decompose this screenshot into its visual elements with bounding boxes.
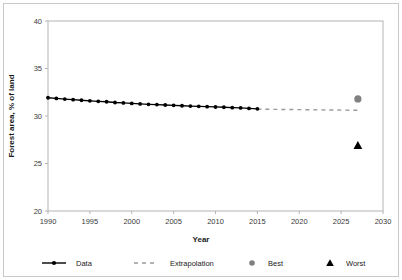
x-tick-label: 2020: [291, 217, 308, 226]
legend-item: Data: [42, 259, 93, 268]
x-axis: 199019952000200520102015202020252030: [40, 211, 392, 226]
legend-label: Extrapolation: [170, 259, 214, 268]
chart-legend: DataExtrapolationBestWorst: [42, 259, 366, 268]
x-tick-label: 2030: [375, 217, 392, 226]
data-point-marker: [188, 104, 192, 108]
forest-area-chart: 2025303540 19901995200020052010201520202…: [0, 0, 402, 280]
best-marker: [354, 95, 361, 102]
x-tick-label: 1995: [82, 217, 99, 226]
y-axis-title: Forest area, % of land: [7, 74, 16, 157]
data-point-marker: [230, 106, 234, 110]
data-point-marker: [255, 107, 259, 111]
legend-dot-icon: [52, 261, 56, 265]
data-point-marker: [105, 100, 109, 104]
data-point-marker: [155, 103, 159, 107]
y-tick-label: 35: [34, 64, 42, 73]
x-tick-label: 2000: [123, 217, 140, 226]
legend-triangle-icon: [326, 259, 334, 266]
data-point-marker: [71, 98, 75, 102]
data-point-marker: [96, 99, 100, 103]
x-axis-title: Year: [193, 235, 210, 244]
data-point-marker: [163, 103, 167, 107]
legend-item: Worst: [326, 259, 366, 268]
y-tick-label: 20: [34, 207, 42, 216]
data-point-marker: [222, 105, 226, 109]
legend-label: Best: [268, 259, 284, 268]
series-best-marker: [354, 95, 361, 102]
legend-item: Best: [249, 259, 284, 268]
y-tick-label: 25: [34, 159, 42, 168]
data-point-marker: [180, 104, 184, 108]
data-point-marker: [239, 106, 243, 110]
x-tick-label: 2025: [333, 217, 350, 226]
data-point-marker: [214, 105, 218, 109]
x-tick-label: 2005: [165, 217, 182, 226]
data-point-marker: [54, 97, 58, 101]
legend-item: Extrapolation: [134, 259, 214, 268]
data-point-marker: [197, 104, 201, 108]
x-tick-label: 2015: [249, 217, 266, 226]
y-axis: 2025303540: [34, 17, 48, 216]
data-point-marker: [138, 102, 142, 106]
legend-label: Worst: [346, 259, 366, 268]
y-tick-label: 30: [34, 112, 42, 121]
x-tick-label: 2010: [207, 217, 224, 226]
data-point-marker: [63, 97, 67, 101]
data-point-marker: [88, 99, 92, 103]
data-point-marker: [130, 102, 134, 106]
chart-canvas: 2025303540 19901995200020052010201520202…: [0, 0, 402, 280]
data-point-marker: [80, 98, 84, 102]
data-point-marker: [147, 102, 151, 106]
legend-circle-icon: [249, 260, 255, 266]
plot-area-frame: [48, 21, 383, 211]
data-point-marker: [247, 107, 251, 111]
x-tick-label: 1990: [40, 217, 57, 226]
data-point-marker: [172, 103, 176, 107]
data-point-marker: [46, 96, 50, 100]
legend-label: Data: [76, 259, 93, 268]
data-point-marker: [205, 105, 209, 109]
data-point-marker: [113, 101, 117, 105]
y-tick-label: 40: [34, 17, 42, 26]
data-point-marker: [121, 101, 125, 105]
